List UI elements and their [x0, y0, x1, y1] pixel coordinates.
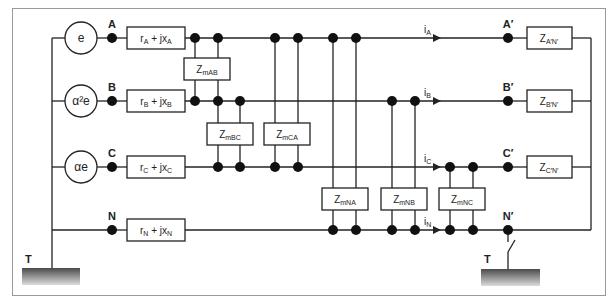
load-impedance-a: ZA′N′ — [527, 27, 572, 49]
source-alphae: αe — [65, 151, 97, 183]
node-label-c: C — [108, 147, 116, 159]
circuit-diagram: T T e α²e αe A B C N A′ B′ C′ N′ rA + jx… — [0, 0, 613, 304]
source-alpha2e: α²e — [65, 85, 97, 117]
mutual-impedance-bc: ZmBC — [207, 123, 253, 145]
arrow-icon — [433, 34, 441, 42]
source-e: e — [65, 22, 97, 54]
node-label-a: A — [108, 18, 116, 30]
series-impedance-a: rA + jxA — [127, 27, 185, 49]
diagram-frame — [13, 9, 606, 296]
arrow-icon — [433, 97, 441, 105]
current-label-a: iA — [424, 24, 431, 36]
circuit-svg: T T e α²e αe A B C N A′ B′ C′ N′ rA + jx… — [0, 0, 613, 304]
current-label-n: iN — [424, 216, 431, 228]
arrow-icon — [433, 163, 441, 171]
mutual-impedance-ab: ZmAB — [184, 58, 230, 80]
source-label: e — [78, 31, 85, 45]
node-label-b-prime: B′ — [503, 81, 514, 93]
mutual-impedance-nc: ZmNC — [439, 188, 485, 210]
ground-left — [22, 268, 80, 285]
series-impedance-b: rB + jxB — [127, 90, 185, 112]
mutual-impedance-nb: ZmNB — [381, 188, 427, 210]
mutual-impedance-na: ZmNA — [322, 188, 368, 210]
ground-right-label: T — [484, 253, 491, 265]
series-impedance-n: rN + jxN — [127, 219, 185, 241]
node-label-n: N — [108, 210, 116, 222]
series-impedance-c: rC + jxC — [127, 156, 185, 178]
current-label-b: iB — [424, 87, 431, 99]
node-label-c-prime: C′ — [503, 147, 514, 159]
node-label-n-prime: N′ — [503, 210, 514, 222]
mutual-impedance-ca: ZmCA — [264, 123, 310, 145]
load-impedance-b: ZB′N′ — [527, 90, 572, 112]
source-label: α²e — [72, 94, 90, 108]
current-label-c: iC — [424, 153, 431, 165]
node-label-a-prime: A′ — [503, 18, 514, 30]
arrow-icon — [433, 226, 441, 234]
source-label: αe — [74, 160, 88, 174]
node-label-b: B — [108, 81, 116, 93]
load-impedance-c: ZC′N′ — [527, 156, 572, 178]
ground-right — [481, 269, 540, 286]
ground-left-label: T — [25, 253, 32, 265]
